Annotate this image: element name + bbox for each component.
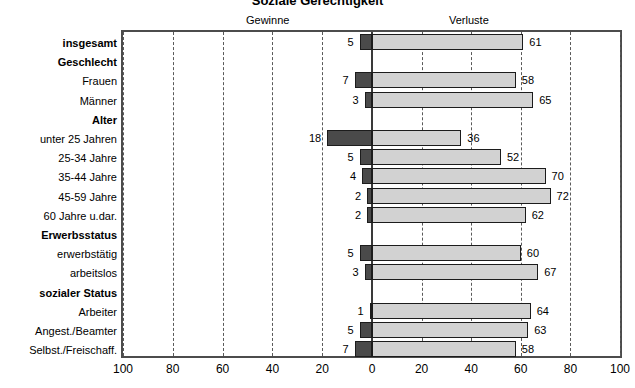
bar-verluste <box>372 207 526 223</box>
gridline <box>620 32 621 356</box>
value-label-gewinne: 5 <box>316 322 354 338</box>
bar-gewinne <box>360 322 372 338</box>
x-tick-label: 100 <box>600 362 635 376</box>
value-label-verluste: 58 <box>522 341 562 357</box>
value-label-gewinne: 3 <box>321 92 359 108</box>
chart-title: Soziale Gerechtigkeit <box>0 0 635 8</box>
value-label-verluste: 36 <box>467 130 507 146</box>
value-label-verluste: 64 <box>537 303 577 319</box>
bar-gewinne <box>360 149 372 165</box>
bar-verluste <box>372 245 521 261</box>
bar-verluste <box>372 303 531 319</box>
value-label-gewinne: 5 <box>316 149 354 165</box>
bar-row: 262 <box>123 207 620 229</box>
value-label-verluste: 65 <box>539 92 579 108</box>
bar-verluste <box>372 130 461 146</box>
bar-verluste <box>372 72 516 88</box>
bar-row: 561 <box>123 34 620 56</box>
bar-gewinne <box>365 92 372 108</box>
x-tick-label: 60 <box>203 362 243 376</box>
bar-gewinne <box>355 341 372 357</box>
x-tick-label: 40 <box>451 362 491 376</box>
x-tick-label: 20 <box>402 362 442 376</box>
x-tick-label: 0 <box>352 362 392 376</box>
value-label-gewinne: 18 <box>283 130 321 146</box>
plot-area: 5617583651836552470272262560367164563758 <box>121 30 622 358</box>
bar-gewinne <box>365 264 372 280</box>
bar-verluste <box>372 341 516 357</box>
bar-verluste <box>372 92 533 108</box>
x-tick-label: 80 <box>550 362 590 376</box>
value-label-gewinne: 4 <box>318 168 356 184</box>
bar-verluste <box>372 264 538 280</box>
value-label-verluste: 60 <box>527 245 567 261</box>
value-label-gewinne: 7 <box>311 72 349 88</box>
bar-gewinne <box>327 130 372 146</box>
value-label-verluste: 72 <box>557 188 597 204</box>
bar-gewinne <box>362 168 372 184</box>
value-label-gewinne: 1 <box>326 303 364 319</box>
value-label-gewinne: 7 <box>311 341 349 357</box>
bar-verluste <box>372 149 501 165</box>
value-label-verluste: 61 <box>529 34 569 50</box>
bar-verluste <box>372 168 546 184</box>
value-label-gewinne: 2 <box>323 188 361 204</box>
value-label-gewinne: 3 <box>321 264 359 280</box>
bar-verluste <box>372 34 523 50</box>
x-tick-label: 100 <box>103 362 143 376</box>
category-label: Selbst./Freischaff. <box>0 339 117 361</box>
value-label-verluste: 67 <box>544 264 584 280</box>
value-label-gewinne: 2 <box>323 207 361 223</box>
x-tick-label: 60 <box>501 362 541 376</box>
value-label-verluste: 62 <box>532 207 572 223</box>
bar-gewinne <box>355 72 372 88</box>
bar-verluste <box>372 322 528 338</box>
axis-header-verluste: Verluste <box>449 14 489 26</box>
bar-row: 365 <box>123 92 620 114</box>
value-label-gewinne: 5 <box>316 245 354 261</box>
bars-layer: 5617583651836552470272262560367164563758 <box>123 32 620 356</box>
chart-container: Soziale Gerechtigkeit Gewinne Verluste 5… <box>0 0 635 388</box>
x-tick-label: 80 <box>153 362 193 376</box>
value-label-gewinne: 5 <box>316 34 354 50</box>
bar-row: 758 <box>123 341 620 363</box>
axis-header-gewinne: Gewinne <box>246 14 289 26</box>
bar-verluste <box>372 188 551 204</box>
x-tick-label: 40 <box>252 362 292 376</box>
value-label-verluste: 52 <box>507 149 547 165</box>
x-tick-label: 20 <box>302 362 342 376</box>
bar-row: 367 <box>123 264 620 286</box>
value-label-verluste: 70 <box>552 168 592 184</box>
value-label-verluste: 63 <box>534 322 574 338</box>
bar-gewinne <box>360 245 372 261</box>
bar-gewinne <box>360 34 372 50</box>
value-label-verluste: 58 <box>522 72 562 88</box>
